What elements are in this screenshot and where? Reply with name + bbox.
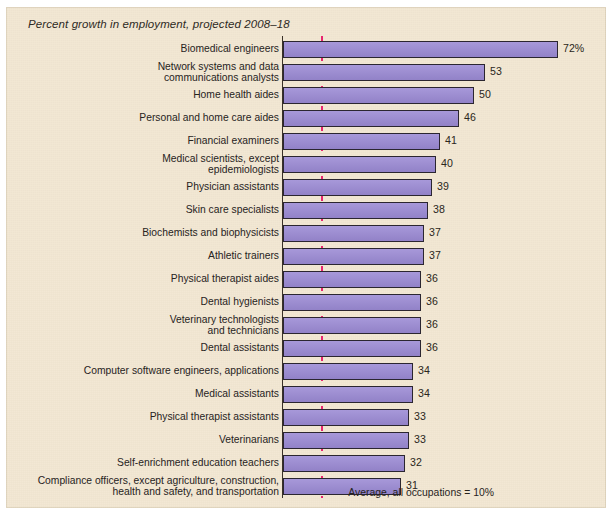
bar [283, 110, 459, 127]
bar [283, 317, 421, 334]
bar [283, 294, 421, 311]
bar-category-label: Network systems and data communications … [19, 61, 279, 84]
bar-wrapper [283, 317, 421, 334]
bar-wrapper [283, 340, 421, 357]
bar-wrapper [283, 294, 421, 311]
bar-wrapper [283, 409, 409, 426]
bar [283, 340, 421, 357]
bar [283, 363, 413, 380]
chart-bar-row: Self-enrichment education teachers32 [0, 452, 611, 475]
chart-bar-row: Athletic trainers37 [0, 245, 611, 268]
bar-category-label: Financial examiners [19, 135, 279, 146]
bar-wrapper [283, 87, 474, 104]
bar-category-label: Veterinarians [19, 434, 279, 445]
bar-value-label: 50 [479, 88, 491, 100]
chart-bar-row: Veterinary technologists and technicians… [0, 314, 611, 337]
chart-bar-row: Medical scientists, except epidemiologis… [0, 153, 611, 176]
bar [283, 248, 424, 265]
bar-value-label: 36 [426, 295, 438, 307]
bar-value-label: 37 [429, 249, 441, 261]
bar [283, 432, 409, 449]
bar [283, 133, 440, 150]
bar-category-label: Computer software engineers, application… [19, 365, 279, 376]
bar-value-label: 37 [429, 226, 441, 238]
bar-value-label: 32 [410, 456, 422, 468]
chart-bar-row: Physical therapist aides36 [0, 268, 611, 291]
bar-value-label: 53 [490, 65, 502, 77]
bar-category-label: Self-enrichment education teachers [19, 457, 279, 468]
bar-category-label: Home health aides [19, 89, 279, 100]
chart-bar-row: Personal and home care aides46 [0, 107, 611, 130]
bar-category-label: Physical therapist assistants [19, 411, 279, 422]
bar-value-label: 72% [563, 42, 584, 54]
chart-bar-row: Dental hygienists36 [0, 291, 611, 314]
bar-wrapper [283, 41, 558, 58]
bar-category-label: Medical assistants [19, 388, 279, 399]
chart-bar-row: Veterinarians33 [0, 429, 611, 452]
bar-category-label: Biomedical engineers [19, 43, 279, 54]
bar-wrapper [283, 133, 440, 150]
bar-value-label: 34 [418, 364, 430, 376]
bar-wrapper [283, 432, 409, 449]
bar-category-label: Athletic trainers [19, 250, 279, 261]
bar-category-label: Skin care specialists [19, 204, 279, 215]
bar [283, 455, 405, 472]
bar-wrapper [283, 156, 436, 173]
bar-value-label: 36 [426, 341, 438, 353]
bar [283, 64, 485, 81]
chart-figure: Percent growth in employment, projected … [0, 0, 611, 519]
bar-value-label: 40 [441, 157, 453, 169]
bar-category-label: Dental assistants [19, 342, 279, 353]
bar-wrapper [283, 110, 459, 127]
bar [283, 271, 421, 288]
bar-wrapper [283, 363, 413, 380]
plot-area: Biomedical engineers72%Network systems a… [0, 0, 611, 519]
bar-value-label: 33 [414, 410, 426, 422]
bar-wrapper [283, 179, 432, 196]
average-annotation: Average, all occupations = 10% [0, 487, 494, 498]
bar-category-label: Medical scientists, except epidemiologis… [19, 153, 279, 176]
chart-bar-row: Dental assistants36 [0, 337, 611, 360]
bar-wrapper [283, 202, 428, 219]
bar-category-label: Physician assistants [19, 181, 279, 192]
chart-bar-row: Network systems and data communications … [0, 61, 611, 84]
bar-category-label: Biochemists and biophysicists [19, 227, 279, 238]
bar-value-label: 36 [426, 318, 438, 330]
bar-category-label: Physical therapist aides [19, 273, 279, 284]
bar-value-label: 39 [437, 180, 449, 192]
bar-wrapper [283, 386, 413, 403]
bar [283, 386, 413, 403]
bar-wrapper [283, 455, 405, 472]
bar-value-label: 46 [464, 111, 476, 123]
chart-bar-row: Financial examiners41 [0, 130, 611, 153]
bar [283, 156, 436, 173]
bar [283, 409, 409, 426]
bar [283, 225, 424, 242]
bar-value-label: 33 [414, 433, 426, 445]
bar-value-label: 38 [433, 203, 445, 215]
bar-wrapper [283, 248, 424, 265]
chart-bar-row: Biomedical engineers72% [0, 38, 611, 61]
bar-category-label: Veterinary technologists and technicians [19, 314, 279, 337]
chart-bar-row: Physician assistants39 [0, 176, 611, 199]
chart-bar-row: Skin care specialists38 [0, 199, 611, 222]
bar-value-label: 41 [445, 134, 457, 146]
bar-category-label: Personal and home care aides [19, 112, 279, 123]
bar [283, 87, 474, 104]
bar [283, 179, 432, 196]
bar-value-label: 36 [426, 272, 438, 284]
chart-bar-row: Biochemists and biophysicists37 [0, 222, 611, 245]
bar [283, 202, 428, 219]
chart-bar-row: Computer software engineers, application… [0, 360, 611, 383]
bar-wrapper [283, 271, 421, 288]
bar-value-label: 34 [418, 387, 430, 399]
chart-bar-row: Medical assistants34 [0, 383, 611, 406]
bar-wrapper [283, 225, 424, 242]
bar-wrapper [283, 64, 485, 81]
chart-bar-row: Physical therapist assistants33 [0, 406, 611, 429]
chart-bar-row: Home health aides50 [0, 84, 611, 107]
bar-category-label: Dental hygienists [19, 296, 279, 307]
bar [283, 41, 558, 58]
